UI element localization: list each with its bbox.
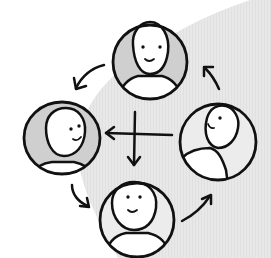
avatar-bottom <box>100 182 174 258</box>
avatar-top <box>113 22 187 100</box>
arrow-top-to-left-icon <box>74 65 104 89</box>
rotation-diagram <box>0 0 271 258</box>
